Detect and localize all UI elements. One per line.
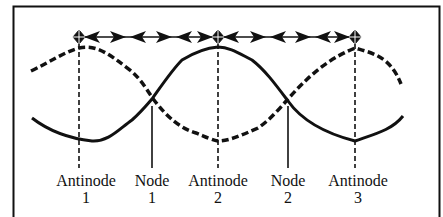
dashed-wave [31,47,401,141]
label-antinode-3-number: 3 [313,189,403,206]
label-antinode-3: Antinode 3 [313,172,403,206]
node-lines [152,106,288,168]
standing-wave-diagram: Antinode 1 Node 1 Antinode 2 Node 2 Anti… [0,0,443,217]
label-antinode-3-title: Antinode [313,172,403,189]
